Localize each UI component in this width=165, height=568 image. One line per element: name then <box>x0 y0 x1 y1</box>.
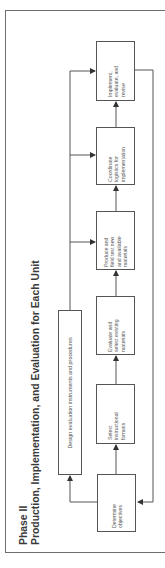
box-label: Coordinate logistics for implementation <box>106 130 125 182</box>
box-produce-field-test: Produce and field test new and available… <box>96 211 135 270</box>
box-select-formats: Select instructional formats <box>96 384 135 444</box>
box-coordinate-logistics: Coordinate logistics for implementation <box>96 127 135 185</box>
box-label: Select instructional formats <box>106 388 125 440</box>
box-label: Determine objectives <box>110 478 123 528</box>
connectors <box>0 0 165 568</box>
box-label: Produce and field test new and available… <box>103 215 128 267</box>
design-evaluation-box: Design evaluation instruments and proced… <box>58 310 82 475</box>
box-label: Implement, evaluate, and revise <box>106 45 125 97</box>
box-determine-objectives: Determine objectives <box>97 474 136 532</box>
box-evaluate-materials: Evaluate and select existing materials <box>96 296 135 355</box>
phase-ii-flow-diagram: Phase II Production, Implementation, and… <box>0 0 165 568</box>
design-evaluation-label: Design evaluation instruments and proced… <box>67 337 73 448</box>
box-label: Evaluate and select existing materials <box>106 300 125 352</box>
box-implement-revise: Implement, evaluate, and revise <box>96 41 135 101</box>
